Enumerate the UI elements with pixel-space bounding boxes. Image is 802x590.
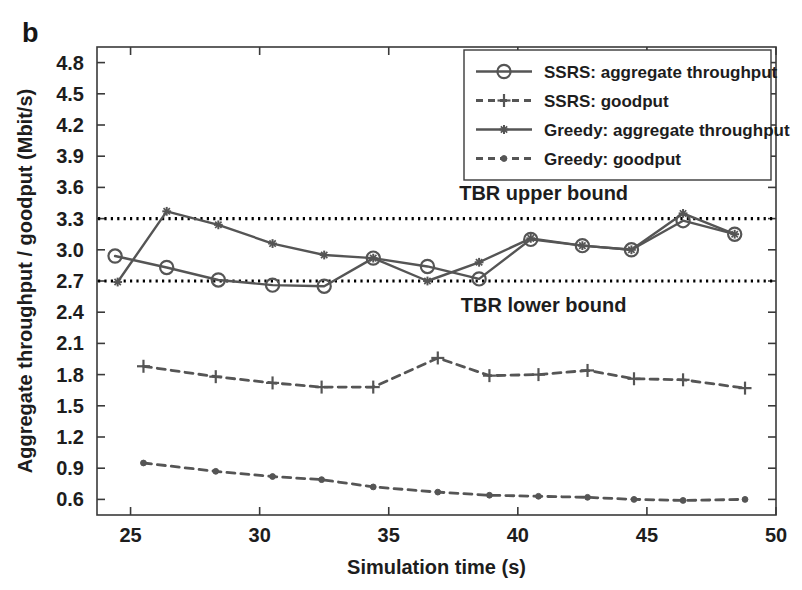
y-tick-label: 3.6 — [56, 176, 84, 198]
marker-dot — [213, 468, 219, 474]
y-tick-label: 2.1 — [56, 332, 84, 354]
legend-item-label: SSRS: goodput — [544, 92, 669, 111]
y-tick-label: 0.6 — [56, 488, 84, 510]
annotation-label: TBR upper bound — [459, 182, 628, 204]
x-tick-label: 45 — [636, 524, 658, 546]
marker-dot — [435, 489, 441, 495]
y-axis-title: Aggregate throughput / goodput (Mbit/s) — [14, 89, 36, 473]
x-tick-label: 35 — [378, 524, 400, 546]
y-tick-label: 4.5 — [56, 83, 84, 105]
x-tick-label: 25 — [119, 524, 141, 546]
y-tick-label: 1.2 — [56, 426, 84, 448]
y-tick-label: 2.4 — [56, 301, 85, 323]
marker-dot — [319, 477, 325, 483]
figure-panel-b: b 0.60.91.21.51.82.12.42.73.03.33.63.94.… — [0, 0, 802, 590]
y-tick-label: 4.2 — [56, 114, 84, 136]
x-tick-label: 40 — [507, 524, 529, 546]
panel-label: b — [22, 18, 39, 49]
marker-dot — [585, 494, 591, 500]
y-tick-label: 2.7 — [56, 270, 84, 292]
marker-dot — [370, 484, 376, 490]
x-axis-title: Simulation time (s) — [347, 556, 526, 578]
legend-item-label: Greedy: goodput — [544, 150, 681, 169]
y-tick-label: 1.8 — [56, 364, 84, 386]
line-chart: 0.60.91.21.51.82.12.42.73.03.33.63.94.24… — [0, 0, 802, 590]
legend-item-label: SSRS: aggregate throughput — [544, 63, 778, 82]
marker-dot — [141, 460, 147, 466]
marker-dot — [680, 498, 686, 504]
marker-dot — [487, 492, 493, 498]
y-tick-label: 0.9 — [56, 457, 84, 479]
y-tick-label: 4.8 — [56, 52, 84, 74]
y-tick-label: 1.5 — [56, 395, 84, 417]
annotation-label: TBR lower bound — [461, 294, 627, 316]
y-tick-label: 3.9 — [56, 145, 84, 167]
y-tick-label: 3.0 — [56, 239, 84, 261]
x-tick-label: 30 — [249, 524, 271, 546]
x-tick-label: 50 — [765, 524, 787, 546]
marker-dot — [501, 156, 507, 162]
marker-dot — [631, 497, 637, 503]
legend[interactable]: SSRS: aggregate throughputSSRS: goodputG… — [464, 50, 790, 180]
marker-dot — [536, 493, 542, 499]
y-tick-label: 3.3 — [56, 208, 84, 230]
legend-item-label: Greedy: aggregate throughput — [544, 121, 790, 140]
marker-dot — [270, 474, 276, 480]
marker-dot — [742, 497, 748, 503]
